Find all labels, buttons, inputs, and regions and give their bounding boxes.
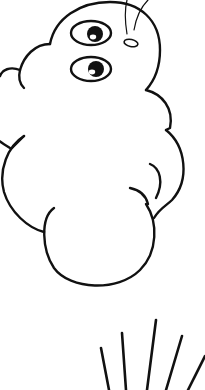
motion-line-1 (101, 348, 109, 390)
eye-lower (71, 57, 111, 81)
motion-line-2 (122, 333, 126, 390)
nose (123, 38, 138, 48)
cloud-puff-left-middle (2, 136, 44, 232)
motion-line-5 (188, 356, 205, 390)
illustration (0, 0, 205, 390)
cloud-puff-left-middle-top (0, 140, 10, 148)
motion-line-4 (166, 336, 182, 390)
cloud-puff-left-top (0, 68, 20, 76)
motion-line-3 (147, 320, 156, 390)
cloud-curl-inner-left (130, 188, 148, 204)
cloud-puff-right-upper (146, 90, 171, 130)
eye-upper (71, 21, 111, 45)
cloud-puff-left-upper (20, 44, 50, 70)
cloud-creature-drawing (0, 0, 205, 390)
cloud-puff-left-top-inner (19, 70, 24, 88)
cloud-curl-inner-right (150, 164, 160, 198)
cloud-puff-bottom (44, 204, 154, 286)
cloud-puff-left-middle-join (12, 136, 24, 148)
